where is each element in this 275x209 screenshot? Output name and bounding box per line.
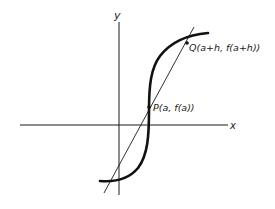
y-axis-label: y: [113, 9, 121, 22]
point-p-marker: [147, 105, 151, 109]
point-q-label: Q(a+h, f(a+h)): [189, 42, 260, 53]
x-axis-label: x: [229, 120, 236, 131]
diagram-canvas: y x P(a, f(a)) Q(a+h, f(a+h)): [0, 0, 275, 209]
point-p-label: P(a, f(a)): [153, 102, 195, 113]
